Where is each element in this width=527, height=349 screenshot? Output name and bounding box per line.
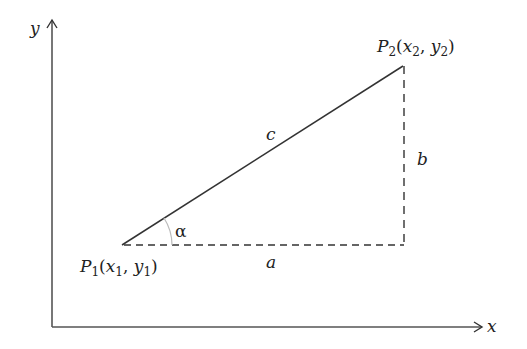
side-c-label: c [266, 124, 276, 144]
distance-diagram: y x α c b a P1(x1, y1) P2(x2, y2) [0, 0, 527, 349]
x-axis [52, 322, 482, 332]
side-b-label: b [417, 149, 428, 169]
x-axis-label: x [487, 316, 497, 336]
y-axis-label: y [29, 18, 40, 38]
y-axis [47, 20, 57, 327]
angle-alpha-label: α [175, 221, 187, 241]
point-p1-label: P1(x1, y1) [79, 256, 158, 279]
angle-arc [164, 218, 172, 245]
side-a-label: a [266, 252, 276, 272]
point-p2-label: P2(x2, y2) [376, 36, 455, 59]
